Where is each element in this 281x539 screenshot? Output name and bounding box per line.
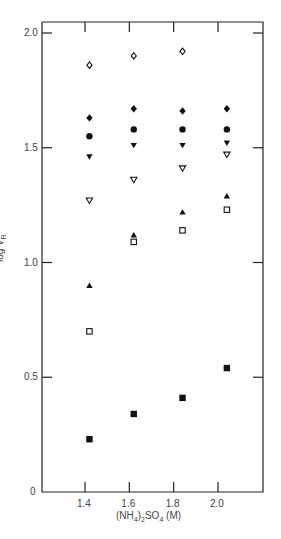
- x-tick-label: 1.4: [77, 498, 91, 509]
- triangle-up-filled-marker: [86, 283, 92, 288]
- square-filled-marker: [224, 365, 230, 371]
- square-filled-marker: [131, 411, 137, 417]
- y-tick-label: 0.5: [24, 371, 38, 382]
- diamond-filled-marker: [179, 107, 185, 114]
- square-open-marker: [224, 207, 229, 212]
- triangle-down-open-marker: [224, 152, 230, 157]
- y-tick-label: 1.0: [24, 257, 38, 268]
- plot-frame: [42, 22, 263, 492]
- triangle-down-filled-marker: [224, 141, 230, 146]
- y-axis-label-subscript: R: [0, 234, 7, 239]
- diamond-open-marker: [87, 62, 92, 68]
- x-label-part: (NH: [116, 510, 134, 521]
- diamond-filled-marker: [86, 114, 92, 121]
- triangle-down-open-marker: [179, 166, 185, 171]
- y-axis-label: log VR: [0, 234, 7, 262]
- y-tick-label: 2.0: [24, 27, 38, 38]
- triangle-down-open-marker: [131, 177, 137, 182]
- y-tick-label: 1.5: [24, 142, 38, 153]
- y-axis-ticks: [42, 33, 263, 377]
- square-open-marker: [87, 329, 92, 334]
- y-axis-label-main: log V: [0, 239, 5, 262]
- triangle-down-filled-marker: [131, 143, 137, 148]
- square-filled-marker: [179, 395, 185, 401]
- scatter-chart: [0, 0, 281, 539]
- x-label-part: (M): [163, 510, 181, 521]
- x-tick-label: 2.0: [210, 498, 224, 509]
- triangle-up-filled-marker: [224, 193, 230, 198]
- y-tick-label: 0: [30, 486, 36, 497]
- triangle-down-filled-marker: [86, 154, 92, 159]
- diamond-open-marker: [180, 48, 185, 54]
- diamond-open-marker: [131, 53, 136, 59]
- square-filled-marker: [86, 436, 92, 442]
- circle-filled-marker: [179, 126, 185, 132]
- x-tick-label: 1.6: [121, 498, 135, 509]
- x-label-part: SO: [145, 510, 159, 521]
- square-open-marker: [180, 228, 185, 233]
- triangle-down-filled-marker: [179, 143, 185, 148]
- circle-filled-marker: [86, 133, 92, 139]
- circle-filled-marker: [224, 126, 230, 132]
- x-axis-label: (NH4)2SO4 (M): [116, 510, 181, 523]
- data-points: [86, 48, 230, 442]
- triangle-down-open-marker: [86, 198, 92, 203]
- circle-filled-marker: [131, 126, 137, 132]
- triangle-up-filled-marker: [179, 209, 185, 214]
- square-open-marker: [131, 239, 136, 244]
- diamond-filled-marker: [131, 105, 137, 112]
- x-tick-label: 1.8: [166, 498, 180, 509]
- diamond-filled-marker: [224, 105, 230, 112]
- triangle-up-filled-marker: [131, 232, 137, 237]
- x-axis-ticks: [85, 22, 218, 492]
